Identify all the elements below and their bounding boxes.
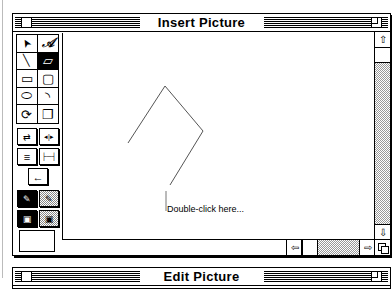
vertical-scroll-thumb[interactable] [374, 47, 391, 63]
rectangle-icon: ▭ [21, 71, 33, 86]
window-title: Insert Picture [152, 15, 251, 30]
arrow-pointer-icon: ➤ [19, 36, 35, 50]
scroll-up-button[interactable]: ⇧ [375, 32, 390, 48]
pen-pattern-button[interactable]: ✎ [39, 190, 59, 207]
page-edge [2, 0, 3, 278]
align-button[interactable]: ≡ [17, 148, 37, 165]
edit-window-title: Edit Picture [158, 269, 246, 284]
horizontal-scrollbar[interactable]: ⇦ ⇨ [62, 239, 375, 255]
edit-picture-window: Edit Picture [12, 267, 391, 289]
horizontal-scroll-thumb[interactable] [302, 239, 318, 256]
left-arrow-icon: ⇦ [291, 243, 299, 253]
arrow-left-icon: ← [33, 171, 44, 183]
distribute-icon: ◂|▸ [44, 133, 54, 141]
oval-icon: ⬭ [21, 88, 32, 104]
up-arrow-icon: ⇧ [379, 35, 387, 45]
duplicate-icon: ❐ [42, 107, 54, 122]
polygon-tool[interactable]: ▱ [38, 53, 59, 71]
drawing-canvas[interactable]: Double-click here... [63, 33, 374, 239]
pen-color-button[interactable]: ✎ [17, 190, 37, 207]
line-width-icon: ├─┤ [42, 153, 57, 160]
pencil-icon: ✎ [23, 194, 31, 204]
rounded-rectangle-icon: ▢ [42, 71, 54, 86]
polygon-icon: ▱ [43, 53, 53, 68]
pencil-pattern-icon: ✎ [45, 194, 53, 204]
edit-title-bar[interactable]: Edit Picture [13, 268, 390, 286]
scroll-right-button[interactable]: ⇨ [359, 240, 375, 255]
arrow-tool[interactable]: ➤ [17, 35, 38, 53]
double-click-hint: Double-click here... [167, 204, 244, 214]
edit-title-stripes-right [264, 271, 389, 282]
drawing-tools: ➤ 𝒜 ╲ ▱ ▭ ▢ ⬭ ◝ ⟳ ❐ [16, 34, 59, 124]
arc-icon: ◝ [45, 89, 50, 104]
line-width-button[interactable]: ├─┤ [39, 148, 59, 165]
down-arrow-icon: ⇩ [379, 228, 387, 238]
title-bar[interactable]: Insert Picture [13, 14, 390, 32]
edit-title-stripes-left [15, 271, 140, 282]
title-stripes-left [15, 17, 140, 28]
rounded-rectangle-tool[interactable]: ▢ [38, 70, 59, 88]
insert-picture-window: Insert Picture ➤ 𝒜 ╲ ▱ ▭ ▢ ⬭ ◝ ⟳ ❐ ⇄ ◂|▸… [12, 13, 391, 256]
arrowhead-button[interactable]: ← [28, 168, 48, 185]
scroll-down-button[interactable]: ⇩ [375, 224, 390, 240]
paint-bucket-icon: ▣ [23, 214, 32, 224]
duplicate-tool[interactable]: ❐ [38, 105, 59, 123]
zoom-box[interactable] [371, 17, 382, 28]
align-left-icon: ≡ [24, 151, 30, 163]
line-tool[interactable]: ╲ [17, 53, 38, 71]
fill-color-button[interactable]: ▣ [17, 210, 37, 227]
title-stripes-right [264, 17, 389, 28]
style-preview [19, 230, 55, 252]
rotate-tool[interactable]: ⟳ [17, 105, 38, 123]
oval-tool[interactable]: ⬭ [17, 88, 38, 106]
text-tool[interactable]: 𝒜 [38, 35, 59, 53]
arc-tool[interactable]: ◝ [38, 88, 59, 106]
paint-bucket-pattern-icon: ▣ [45, 214, 54, 224]
edit-zoom-box[interactable] [371, 271, 382, 282]
tool-palette: ➤ 𝒜 ╲ ▱ ▭ ▢ ⬭ ◝ ⟳ ❐ ⇄ ◂|▸ ≡ ├─┤ ← ✎ ✎ ▣ … [14, 33, 63, 253]
edit-close-box[interactable] [21, 271, 32, 282]
fill-pattern-button[interactable]: ▣ [39, 210, 59, 227]
right-arrow-icon: ⇨ [364, 243, 372, 253]
close-box[interactable] [21, 17, 32, 28]
rotate-icon: ⟳ [21, 107, 32, 122]
flip-button[interactable]: ⇄ [17, 128, 37, 145]
flip-icon: ⇄ [23, 132, 31, 142]
distribute-button[interactable]: ◂|▸ [39, 128, 59, 145]
text-a-icon: 𝒜 [42, 35, 54, 51]
line-icon: ╲ [23, 54, 30, 67]
size-box[interactable] [374, 239, 390, 255]
rectangle-tool[interactable]: ▭ [17, 70, 38, 88]
vertical-scrollbar[interactable]: ⇧ ⇩ [374, 32, 390, 240]
